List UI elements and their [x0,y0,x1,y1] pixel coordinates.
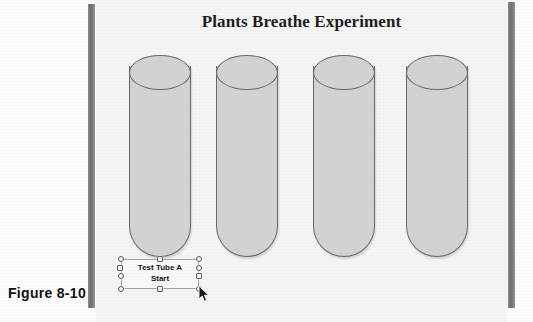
selected-text-box[interactable]: Test Tube A Start [121,259,199,289]
handle-middle-right-2[interactable] [196,273,202,279]
handle-top-center[interactable] [157,256,163,262]
handle-top-right[interactable] [196,256,202,262]
text-box-line-1: Test Tube A [121,262,199,273]
test-tube-rim [216,55,278,90]
handle-middle-left[interactable] [117,265,123,271]
test-tube-rim [406,55,468,90]
handle-top-left[interactable] [118,256,124,262]
test-tube-b[interactable] [216,55,278,257]
scanned-figure: Plants Breathe Experiment Test Tube A St… [0,0,533,322]
mouse-cursor-icon [198,285,210,303]
slide-title: Plants Breathe Experiment [96,12,507,32]
text-box-line-2: Start [121,273,199,284]
test-tube-body [406,66,468,257]
test-tube-body [129,66,191,257]
test-tube-rim [313,55,375,90]
test-tube-rim [129,55,191,90]
text-box-content: Test Tube A Start [121,262,199,284]
test-tube-d[interactable] [406,55,468,257]
test-tube-body [313,66,375,257]
test-tube-c[interactable] [313,55,375,257]
test-tube-body [216,66,278,257]
handle-bottom-left[interactable] [118,286,124,292]
test-tube-a[interactable] [129,55,191,257]
handle-middle-right[interactable] [196,265,202,271]
page-edge-bar-right [508,2,515,308]
handle-middle-left-2[interactable] [118,273,124,279]
figure-caption: Figure 8-10 [8,285,86,301]
handle-bottom-center[interactable] [157,286,163,292]
page-edge-bar-left [88,4,95,308]
